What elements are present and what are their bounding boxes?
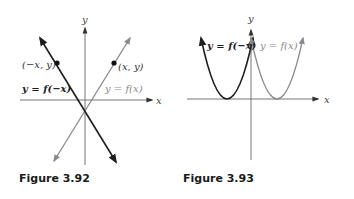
point-label-x-y: (x, y) <box>118 61 144 72</box>
figure-caption-3-93: Figure 3.93 <box>183 172 254 185</box>
reflected-line-label: y = f(−x) <box>21 83 72 94</box>
original-line-label: y = f(x) <box>104 83 143 94</box>
point-label-neg-x-y: (−x, y) <box>22 59 56 70</box>
reflected-parabola-label: y = f(−x) <box>206 40 257 51</box>
figure-3-92: x y (−x, y) (x, y) y = f(−x) y = f(x) Fi… <box>19 14 162 185</box>
point-x-y <box>111 60 116 65</box>
y-axis-label: y <box>247 13 254 24</box>
figures-canvas: x y (−x, y) (x, y) y = f(−x) y = f(x) Fi… <box>0 0 354 199</box>
x-axis-label: x <box>156 95 162 106</box>
x-axis-label: x <box>324 94 330 105</box>
original-parabola-label: y = f(x) <box>259 40 298 51</box>
y-axis-label: y <box>81 14 88 25</box>
figure-3-93: x y y = f(−x) y = f(x) Figure 3.93 <box>183 13 330 185</box>
figure-caption-3-92: Figure 3.92 <box>19 172 90 185</box>
